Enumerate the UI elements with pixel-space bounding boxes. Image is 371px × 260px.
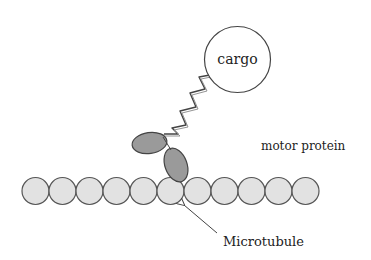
tubulin-subunit	[292, 178, 319, 205]
microtubule	[22, 178, 319, 205]
tubulin-subunit	[184, 178, 211, 205]
tubulin-subunit	[22, 178, 49, 205]
tubulin-subunit	[265, 178, 292, 205]
cargo-label: cargo	[217, 51, 257, 67]
motor-protein-label: motor protein	[261, 139, 346, 153]
tubulin-subunit	[130, 178, 157, 205]
tubulin-subunit	[103, 178, 130, 205]
cargo: cargo	[205, 27, 271, 93]
motor-protein	[131, 130, 193, 185]
tubulin-subunit	[76, 178, 103, 205]
coiled-coil-stalk	[164, 75, 211, 136]
motor-head-rear	[131, 130, 169, 156]
tubulin-subunit	[238, 178, 265, 205]
tubulin-subunit	[211, 178, 238, 205]
microtubule-pointer-arrow	[184, 205, 217, 233]
motor-protein-diagram: cargo motor protein Microtubule	[0, 0, 371, 260]
microtubule-label: Microtubule	[223, 234, 304, 249]
tubulin-subunit	[49, 178, 76, 205]
